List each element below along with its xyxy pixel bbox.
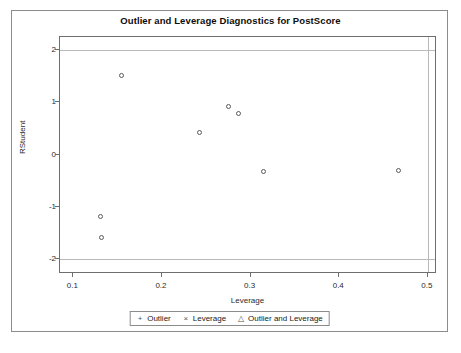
data-point: [98, 214, 103, 219]
x-axis: 0.10.20.30.40.5: [59, 273, 436, 295]
x-axis-tick-mark: [338, 273, 339, 277]
y-axis-title: RStudent: [18, 121, 27, 154]
legend-label: Outlier: [147, 314, 171, 323]
reference-line-vertical: [428, 37, 429, 272]
x-axis-tick-label: 0.1: [67, 281, 78, 290]
legend-label: Leverage: [193, 314, 226, 323]
legend-entry[interactable]: ×Leverage: [182, 314, 226, 323]
data-point: [99, 235, 104, 240]
y-axis-tick-marks: [55, 36, 60, 273]
data-point: [396, 168, 401, 173]
data-point: [226, 104, 231, 109]
legend-entry[interactable]: +Outlier: [136, 314, 171, 323]
x-axis-tick-mark: [250, 273, 251, 277]
y-axis-tick-labels: 210-1-2: [40, 36, 56, 273]
reference-line-horizontal: [60, 259, 435, 260]
y-axis-tick-mark: [55, 49, 59, 50]
x-axis-tick-mark: [427, 273, 428, 277]
x-axis-title: Leverage: [59, 296, 436, 305]
x-axis-tick-mark: [161, 273, 162, 277]
y-axis-tick-mark: [55, 154, 59, 155]
data-point: [236, 111, 241, 116]
legend: +Outlier×Leverage△Outlier and Leverage: [129, 311, 330, 326]
x-axis-tick-label: 0.5: [421, 281, 432, 290]
legend-label: Outlier and Leverage: [248, 314, 323, 323]
y-axis-tick-mark: [55, 258, 59, 259]
reference-line-horizontal: [60, 50, 435, 51]
legend-marker-icon: +: [136, 315, 144, 323]
data-point: [119, 73, 124, 78]
x-axis-tick-label: 0.4: [333, 281, 344, 290]
chart-title: Outlier and Leverage Diagnostics for Pos…: [12, 15, 449, 26]
data-point: [261, 169, 266, 174]
y-axis-tick-mark: [55, 101, 59, 102]
x-axis-tick-mark: [72, 273, 73, 277]
legend-marker-icon: ×: [182, 315, 190, 323]
plot-area: [59, 36, 436, 273]
y-axis-tick-mark: [55, 206, 59, 207]
x-axis-tick-label: 0.2: [155, 281, 166, 290]
legend-marker-icon: △: [237, 315, 245, 323]
data-point: [197, 130, 202, 135]
legend-entry[interactable]: △Outlier and Leverage: [237, 314, 323, 323]
chart-frame: Outlier and Leverage Diagnostics for Pos…: [11, 10, 448, 332]
x-axis-tick-label: 0.3: [244, 281, 255, 290]
